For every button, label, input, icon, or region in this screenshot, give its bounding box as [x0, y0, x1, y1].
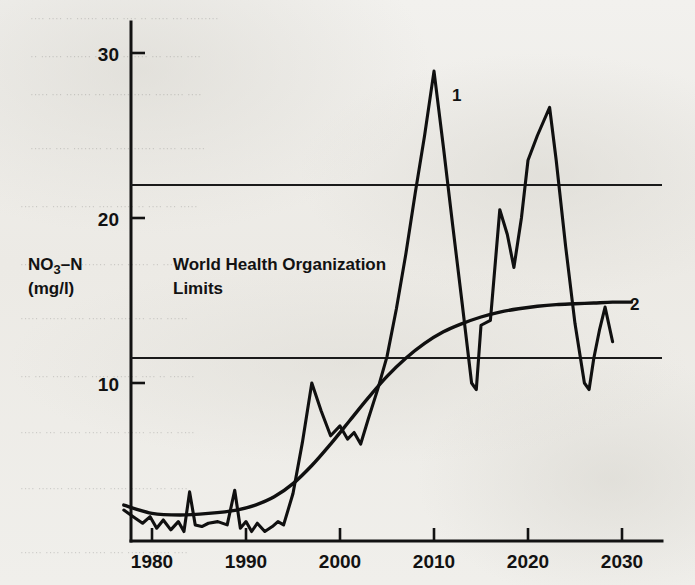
- who-limits-annotation: World Health Organization Limits: [173, 255, 386, 298]
- x-axis-tick-labels: 1980 1990 2000 2010 2020 2030: [131, 551, 643, 572]
- who-annotation-line1: World Health Organization: [173, 255, 386, 274]
- y-ticklabel-10: 10: [98, 374, 119, 395]
- y-ticklabel-20: 20: [98, 209, 119, 230]
- series-1-measured-curve: [124, 71, 613, 531]
- x-ticklabel-2030: 2030: [601, 551, 643, 572]
- nitrate-trend-chart: 30 20 10 1980 1990 2000 2010 2020 2030 N…: [0, 0, 695, 585]
- y-axis-ticks: [131, 53, 145, 383]
- x-ticklabel-1980: 1980: [131, 551, 173, 572]
- y-ticklabel-30: 30: [98, 44, 119, 65]
- y-axis-title-line1: NO3–N: [28, 255, 82, 277]
- series-1-label: 1: [452, 86, 461, 105]
- series-2-trend-curve: [124, 302, 632, 515]
- y-axis-title-line2: (mg/l): [28, 279, 74, 298]
- who-annotation-line2: Limits: [173, 279, 223, 298]
- x-ticklabel-1990: 1990: [225, 551, 267, 572]
- x-ticklabel-2020: 2020: [507, 551, 549, 572]
- series-2-label: 2: [630, 295, 639, 314]
- x-ticklabel-2000: 2000: [319, 551, 361, 572]
- x-ticklabel-2010: 2010: [413, 551, 455, 572]
- y-axis-tick-labels: 30 20 10: [98, 44, 119, 395]
- x-axis-ticks: [152, 528, 622, 541]
- y-axis-title: NO3–N (mg/l): [28, 255, 82, 298]
